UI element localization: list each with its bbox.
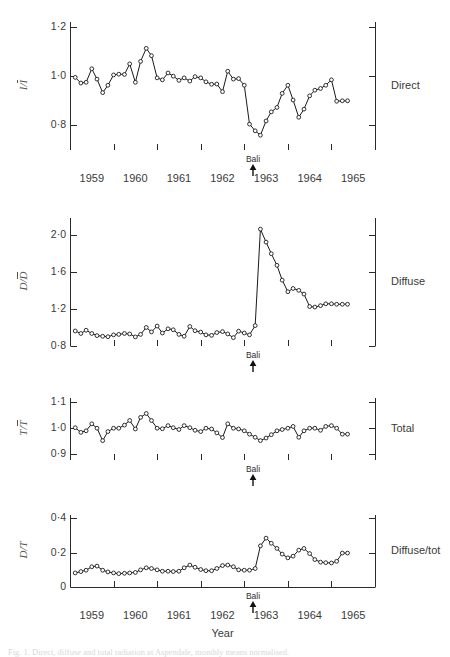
data-point <box>253 435 257 439</box>
data-point <box>144 412 148 416</box>
plot-canvas <box>70 22 377 152</box>
data-point <box>330 561 334 565</box>
data-point <box>215 567 219 571</box>
data-point <box>133 427 137 431</box>
data-point <box>248 432 252 436</box>
data-point <box>171 570 175 574</box>
data-point <box>182 424 186 428</box>
data-point <box>123 73 127 77</box>
data-point <box>324 83 328 87</box>
data-point <box>297 548 301 552</box>
data-point <box>308 426 312 430</box>
data-point <box>144 566 148 570</box>
data-point <box>182 334 186 338</box>
data-point <box>101 568 105 572</box>
y-tick-label: 0·2 <box>28 546 66 558</box>
chart-panel-diffuse-tot <box>70 515 375 587</box>
data-point <box>286 83 290 87</box>
data-point <box>117 72 121 76</box>
data-point <box>221 330 225 334</box>
data-point <box>248 333 252 337</box>
data-point <box>106 83 110 87</box>
x-tick-label: 1962 <box>201 609 245 621</box>
data-point <box>128 332 132 336</box>
data-point <box>221 90 225 94</box>
data-point <box>335 559 339 563</box>
data-point <box>221 436 225 440</box>
data-point <box>324 561 328 565</box>
data-point <box>226 332 230 336</box>
data-point <box>166 71 170 75</box>
data-point <box>166 569 170 573</box>
data-point <box>335 99 339 103</box>
data-point <box>275 106 279 110</box>
data-point <box>319 428 323 432</box>
y-tick-label: 0 <box>28 580 66 592</box>
bali-annotation-label: Bali <box>233 350 273 360</box>
bali-arrow-icon <box>248 474 258 486</box>
data-point <box>177 569 181 573</box>
data-point <box>84 80 88 84</box>
data-point <box>155 426 159 430</box>
data-point <box>237 427 241 431</box>
data-point <box>248 568 252 572</box>
data-point <box>128 419 132 423</box>
data-point <box>133 571 137 575</box>
data-point <box>160 78 164 82</box>
data-point <box>188 325 192 329</box>
data-point <box>253 129 257 133</box>
data-point <box>155 324 159 328</box>
data-point <box>340 551 344 555</box>
data-point <box>242 568 246 572</box>
data-point <box>73 75 77 79</box>
data-point <box>106 430 110 434</box>
data-point <box>330 78 334 82</box>
data-point <box>297 435 301 439</box>
x-tick-label: 1959 <box>70 172 114 184</box>
data-point <box>269 252 273 256</box>
data-point <box>90 67 94 71</box>
data-point <box>160 569 164 573</box>
data-point <box>286 426 290 430</box>
data-point <box>308 305 312 309</box>
chart-panel-total <box>70 398 375 460</box>
data-point <box>215 431 219 435</box>
data-point <box>150 330 154 334</box>
data-point <box>84 568 88 572</box>
data-point <box>275 429 279 433</box>
data-point <box>210 82 214 86</box>
y-tick-label: 1·0 <box>28 69 66 81</box>
data-point <box>117 426 121 430</box>
data-point <box>139 568 143 572</box>
y-tick-label: 0·8 <box>28 118 66 130</box>
x-tick-label: 1961 <box>157 609 201 621</box>
y-tick-label: 1·0 <box>28 421 66 433</box>
data-point <box>123 423 127 427</box>
data-point <box>199 430 203 434</box>
data-point <box>210 333 214 337</box>
data-point <box>237 77 241 81</box>
data-point <box>242 429 246 433</box>
x-tick-label: 1960 <box>113 609 157 621</box>
data-point <box>166 424 170 428</box>
data-point <box>117 572 121 576</box>
data-point <box>204 333 208 337</box>
data-point <box>259 439 263 443</box>
data-point <box>182 566 186 570</box>
data-point <box>133 335 137 339</box>
data-point <box>264 119 268 123</box>
bali-annotation-label: Bali <box>233 591 273 601</box>
data-point <box>253 324 257 328</box>
data-point <box>340 99 344 103</box>
x-tick-label: 1960 <box>113 172 157 184</box>
data-point <box>231 565 235 569</box>
data-point <box>308 552 312 556</box>
data-point <box>155 76 159 80</box>
data-point <box>95 334 99 338</box>
data-point <box>128 571 132 575</box>
data-point <box>73 329 77 333</box>
data-point <box>330 302 334 306</box>
data-point <box>346 551 350 555</box>
data-point <box>259 544 263 548</box>
plot-canvas <box>70 218 377 348</box>
